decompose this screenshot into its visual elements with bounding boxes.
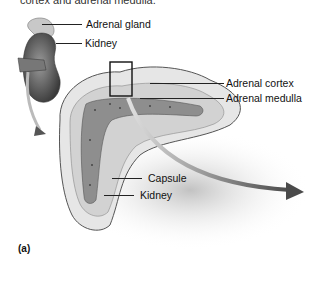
label-capsule: Capsule [148,172,187,184]
label-adrenal-gland: Adrenal gland [86,18,151,30]
label-adrenal-cortex: Adrenal cortex [226,77,294,89]
leader-line-adrenal-gland [42,24,82,25]
small-kidney-icon [18,18,60,136]
leader-line-adrenal-cortex [150,83,224,84]
leader-line-capsule [112,178,142,179]
leader-line-kidney-top [56,43,82,44]
label-adrenal-medulla: Adrenal medulla [226,92,302,104]
adrenal-gland-illustration [0,0,334,293]
leader-line-adrenal-medulla [140,98,224,99]
label-kidney-bottom: Kidney [140,189,172,201]
leader-line-kidney-bottom [104,195,134,196]
panel-label: (a) [18,243,30,254]
label-kidney-top: Kidney [85,37,117,49]
